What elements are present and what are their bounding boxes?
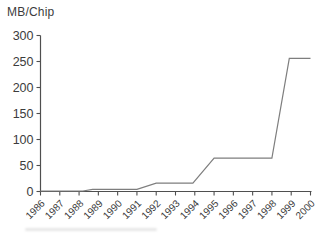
chart-figure: MB/Chip 05010015020025030019861987198819… [0,0,323,235]
y-tick-label: 0 [27,185,34,199]
x-tick-label: 1991 [120,197,144,221]
y-tick-label: 250 [13,55,34,69]
x-tick-label: 1998 [255,197,279,221]
x-tick-label: 1995 [197,197,221,221]
x-tick-label: 1993 [158,197,182,221]
x-tick-label: 1997 [236,197,260,221]
x-tick-label: 1986 [23,197,47,221]
x-tick-label: 1990 [101,197,125,221]
y-tick-label: 300 [13,29,34,43]
y-tick-label: 150 [13,107,34,121]
data-line-mb-per-chip [41,58,311,191]
x-tick-label: 2000 [293,197,317,221]
x-tick-label: 1994 [178,197,202,221]
scan-artifact [25,228,157,231]
x-tick-label: 1992 [139,197,163,221]
x-tick-label: 1987 [43,197,67,221]
x-tick-label: 1999 [274,197,298,221]
y-tick-label: 100 [13,133,34,147]
x-tick-label: 1989 [81,197,105,221]
x-tick-label: 1988 [62,197,86,221]
x-tick-label: 1996 [216,197,240,221]
line-chart: 0501001502002503001986198719881989199019… [0,0,323,235]
y-tick-label: 50 [20,159,34,173]
y-tick-label: 200 [13,81,34,95]
